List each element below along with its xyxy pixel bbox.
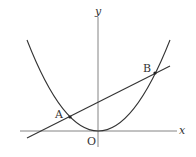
- y-axis-label: y: [94, 5, 102, 18]
- line-ab: [27, 66, 170, 138]
- parabola: [27, 40, 170, 131]
- diagram: A B O x y: [0, 0, 196, 157]
- x-axis-label: x: [179, 124, 186, 137]
- point-b-label: B: [143, 62, 151, 75]
- point-b: [153, 71, 156, 74]
- point-a: [68, 115, 71, 118]
- point-a-label: A: [54, 108, 64, 121]
- origin-label: O: [87, 135, 96, 148]
